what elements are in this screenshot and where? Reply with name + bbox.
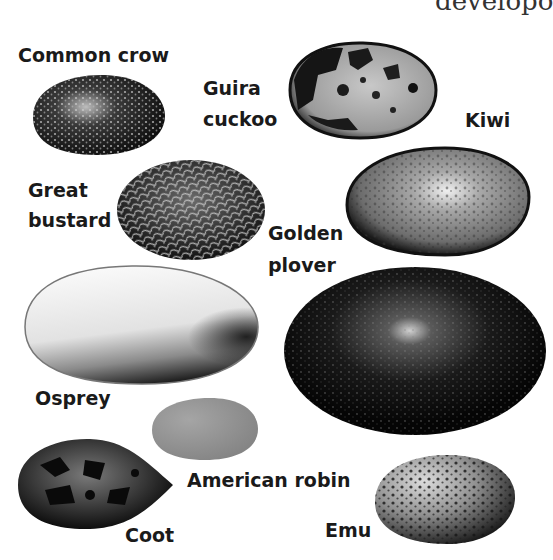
label-guira-cuckoo-line2: cuckoo: [203, 104, 277, 135]
cropped-heading-right: developo: [435, 0, 553, 16]
label-common-crow: Common crow: [18, 40, 169, 71]
label-american-robin: American robin: [187, 465, 351, 496]
label-guira-cuckoo-line1: Guira: [203, 73, 261, 104]
label-coot: Coot: [125, 520, 174, 551]
label-osprey: Osprey: [35, 383, 111, 414]
egg-emu: [372, 452, 517, 546]
label-emu: Emu: [325, 515, 371, 546]
cropped-heading-left: —— ——— ————: [45, 0, 257, 10]
egg-golden-plover: [283, 265, 548, 437]
egg-osprey: [22, 262, 260, 386]
label-kiwi: Kiwi: [465, 105, 510, 136]
egg-guira-cuckoo: [288, 40, 438, 140]
label-great-bustard-line1: Great: [28, 175, 88, 206]
egg-common-crow: [25, 72, 167, 156]
label-golden-plover-line1: Golden: [268, 218, 343, 249]
egg-coot: [15, 435, 177, 531]
egg-kiwi: [345, 145, 531, 257]
label-great-bustard-line2: bustard: [28, 205, 111, 236]
egg-great-bustard: [115, 158, 267, 262]
